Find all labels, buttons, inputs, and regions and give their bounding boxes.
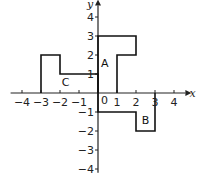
x-tick-label: −3 (33, 96, 49, 109)
y-tick-label: −3 (78, 144, 94, 157)
x-tick-label: −4 (14, 96, 30, 109)
x-tick-label: 3 (152, 96, 159, 109)
y-tick-label: −4 (78, 163, 94, 176)
x-tick-label: 2 (133, 96, 140, 109)
x-tick-label: 1 (114, 96, 121, 109)
origin-label: 0 (101, 94, 108, 107)
x-tick-label: −2 (52, 96, 68, 109)
axes: xy (11, 0, 197, 173)
y-tick-label: 1 (87, 68, 94, 81)
shape-label-a: A (101, 57, 109, 70)
y-tick-label: 4 (87, 11, 94, 24)
coordinate-diagram: xy −4−3−2−11234−4−3−2−112340ABC (0, 0, 201, 179)
x-tick-label: 4 (171, 96, 178, 109)
y-tick-label: 3 (87, 30, 94, 43)
y-tick-label: 2 (87, 49, 94, 62)
shape-label-c: C (62, 76, 70, 89)
y-tick-label: −2 (78, 125, 94, 138)
y-axis-arrow (95, 0, 101, 6)
shape-label-b: B (142, 114, 150, 127)
y-axis-label: y (86, 0, 94, 11)
y-tick-label: −1 (78, 106, 94, 119)
x-axis-label: x (189, 87, 196, 100)
